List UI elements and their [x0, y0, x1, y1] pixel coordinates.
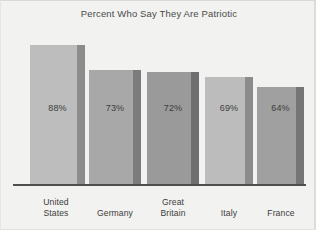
- category-label-line: France: [253, 208, 309, 219]
- bar-side-shadow: [296, 87, 304, 185]
- category-label-line: States: [25, 208, 87, 219]
- category-label-italy: Italy: [203, 208, 255, 219]
- category-label-line: Britain: [143, 208, 203, 219]
- plot-area: 88% 73% 72% 69% 64% United: [1, 1, 316, 230]
- x-axis-line: [13, 184, 306, 186]
- bar-value-label: 69%: [205, 103, 253, 113]
- category-label-line: Germany: [83, 208, 147, 219]
- bar-value-label: 64%: [257, 103, 304, 113]
- bar-group: 88%: [30, 45, 85, 185]
- bar-group: 72%: [147, 72, 199, 185]
- bar-side-shadow: [191, 72, 199, 185]
- chart-frame: Percent Who Say They Are Patriotic 88% 7…: [0, 0, 316, 230]
- bar-side-shadow: [245, 77, 253, 185]
- category-label-france: France: [253, 208, 309, 219]
- bar-group: 64%: [257, 87, 304, 185]
- bar-value-label: 73%: [89, 103, 141, 113]
- bar-group: 73%: [89, 70, 141, 185]
- bar-value-label: 72%: [147, 103, 199, 113]
- category-label-united-states: United States: [25, 197, 87, 219]
- category-label-line: Great: [143, 197, 203, 208]
- category-label-line: Italy: [203, 208, 255, 219]
- bar-side-shadow: [77, 45, 85, 185]
- bar-group: 69%: [205, 77, 253, 185]
- category-label-germany: Germany: [83, 208, 147, 219]
- category-label-line: United: [25, 197, 87, 208]
- bar-value-label: 88%: [30, 103, 85, 113]
- bar-side-shadow: [133, 70, 141, 185]
- category-label-great-britain: Great Britain: [143, 197, 203, 219]
